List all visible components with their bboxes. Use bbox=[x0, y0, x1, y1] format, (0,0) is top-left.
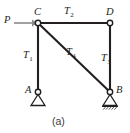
node-marker-C bbox=[35, 20, 40, 25]
ground-hatching-B bbox=[103, 107, 117, 110]
member-label-T2-base: T bbox=[64, 5, 70, 16]
node-label-A: A bbox=[25, 85, 31, 96]
load-label-P: P bbox=[4, 15, 10, 26]
member-label-T2-subscript: 2 bbox=[70, 11, 74, 19]
member-label-T3-base: T bbox=[101, 52, 107, 63]
figure-caption: (a) bbox=[52, 116, 65, 127]
member-label-T1-base: T bbox=[23, 49, 29, 60]
member-label-T3: T3 bbox=[101, 53, 110, 64]
member-label-T2: T2 bbox=[64, 6, 73, 17]
member-label-T4: T4 bbox=[66, 47, 75, 58]
node-label-B: B bbox=[116, 85, 122, 96]
truss-diagram-svg bbox=[0, 0, 130, 133]
node-marker-D bbox=[107, 20, 112, 25]
load-arrow-P bbox=[14, 19, 37, 26]
support-pin-B bbox=[102, 95, 118, 110]
support-pin-A bbox=[31, 95, 45, 106]
member-label-T1-subscript: 1 bbox=[29, 55, 33, 63]
figure-container: C D A B P T1 T2 T3 T4 (a) bbox=[0, 0, 130, 133]
member-label-T3-subscript: 3 bbox=[107, 58, 111, 66]
member-label-T4-subscript: 4 bbox=[72, 52, 76, 60]
member-label-T1: T1 bbox=[23, 50, 32, 61]
node-label-C: C bbox=[34, 7, 41, 18]
member-label-T4-base: T bbox=[66, 46, 72, 57]
node-label-D: D bbox=[106, 7, 114, 18]
